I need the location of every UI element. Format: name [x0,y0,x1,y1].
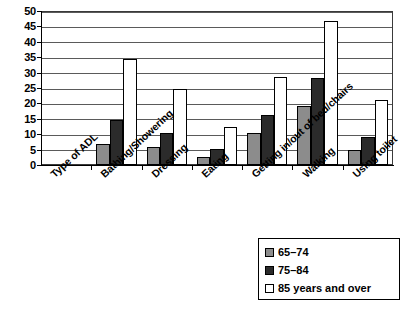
x-axis-label: Eating [199,150,230,180]
legend-item-65-74: 65–74 [265,243,399,261]
x-axis-label: Walking [300,144,337,179]
x-axis-label: Using toilet [350,133,399,180]
legend-swatch-85-over-icon [265,284,274,293]
legend-item-75-84: 75–84 [265,261,399,279]
legend-swatch-75-84-icon [265,266,274,275]
x-axis-label: Getting in/out of bed/chairs [249,80,355,180]
x-axis-label: Type of ADL [48,130,100,179]
legend: 65–74 75–84 85 years and over [258,238,400,300]
legend-label-65-74: 65–74 [278,247,309,258]
legend-label-85-over: 85 years and over [278,283,371,294]
legend-item-85-over: 85 years and over [265,279,399,297]
x-axis-label: Dressing [149,141,189,180]
legend-label-75-84: 75–84 [278,265,309,276]
bar-chart: 05101520253035404550 Type of ADLBathing/… [0,0,409,312]
legend-swatch-65-74-icon [265,248,274,257]
